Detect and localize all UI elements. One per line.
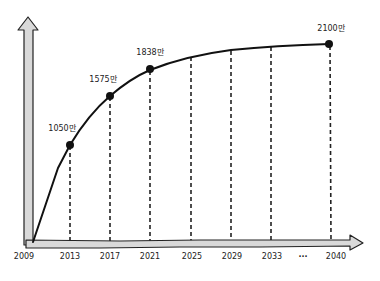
x-tick-2013: 2013 (60, 252, 80, 261)
x-tick-2009: 2009 (14, 252, 34, 261)
x-tick-2040: 2040 (326, 252, 346, 261)
data-label-2021: 1838만 (136, 46, 163, 57)
point-2013 (66, 141, 74, 149)
x-tick-2029: 2029 (222, 252, 242, 261)
x-axis-arrow (26, 235, 363, 250)
point-2017 (106, 92, 114, 100)
line-chart (0, 0, 380, 281)
x-tick-2021: 2021 (140, 252, 160, 261)
y-axis-arrow (18, 17, 38, 245)
x-tick-2025: 2025 (182, 252, 202, 261)
data-line (33, 44, 329, 242)
data-label-2040: 2100만 (317, 22, 344, 33)
x-tick-2017: 2017 (100, 252, 120, 261)
point-2040 (325, 40, 333, 48)
x-tick-2033: 2033 (262, 252, 282, 261)
point-2021 (146, 65, 154, 73)
data-label-2013: 1050만 (48, 122, 75, 133)
data-points (66, 40, 333, 149)
x-tick-ellipsis: ··· (298, 252, 307, 261)
data-label-2017: 1575만 (89, 73, 116, 84)
